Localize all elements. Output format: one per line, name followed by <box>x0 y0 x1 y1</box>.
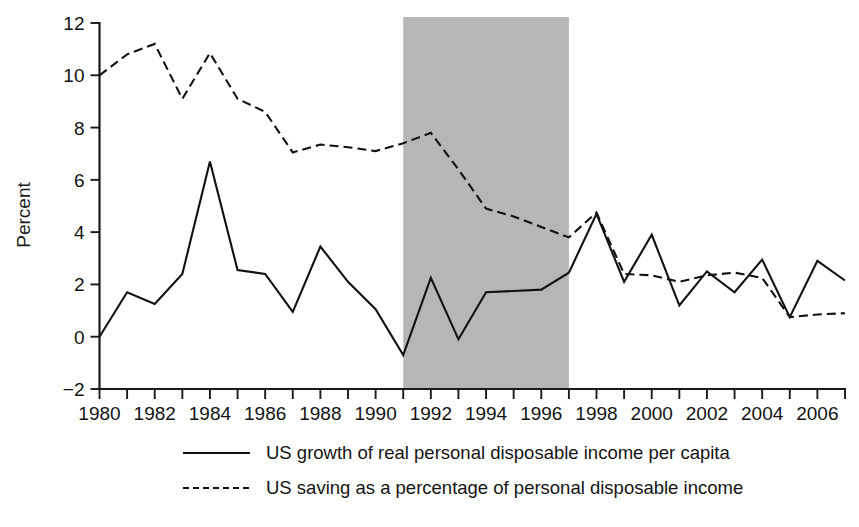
x-tick-label: 1984 <box>189 403 232 424</box>
x-tick-label: 1998 <box>575 403 617 424</box>
legend-label-2: US saving as a percentage of personal di… <box>266 477 743 498</box>
y-tick-label: 0 <box>74 327 85 348</box>
chart-figure: −2024681012 1980198219841986198819901992… <box>0 0 859 527</box>
x-tick-label: 1986 <box>244 403 286 424</box>
legend-label-1: US growth of real personal disposable in… <box>266 442 730 463</box>
chart-legend: US growth of real personal disposable in… <box>183 442 743 498</box>
x-tick-label: 1996 <box>520 403 562 424</box>
y-tick-label: −2 <box>63 379 85 400</box>
x-tick-label: 2006 <box>796 403 838 424</box>
y-axis-title: Percent <box>13 182 34 248</box>
x-tick-label: 1994 <box>465 403 508 424</box>
x-axis-tick-labels: 1980198219841986198819901992199419961998… <box>78 403 838 424</box>
y-tick-label: 12 <box>63 13 84 34</box>
shaded-region-group <box>403 17 569 389</box>
y-tick-label: 4 <box>74 222 85 243</box>
y-tick-label: 10 <box>63 65 84 86</box>
x-axis-ticks <box>100 389 846 399</box>
y-tick-label: 2 <box>74 274 85 295</box>
y-tick-label: 8 <box>74 118 85 139</box>
x-tick-label: 2002 <box>686 403 728 424</box>
y-tick-label: 6 <box>74 170 85 191</box>
x-tick-label: 1988 <box>299 403 341 424</box>
x-tick-label: 1990 <box>354 403 396 424</box>
x-tick-label: 2000 <box>631 403 673 424</box>
x-tick-label: 1992 <box>410 403 452 424</box>
highlight-band <box>403 17 569 389</box>
y-axis-ticks <box>91 23 100 389</box>
y-axis-tick-labels: −2024681012 <box>63 13 85 400</box>
x-tick-label: 1982 <box>134 403 176 424</box>
x-tick-label: 2004 <box>741 403 784 424</box>
x-tick-label: 1980 <box>78 403 120 424</box>
